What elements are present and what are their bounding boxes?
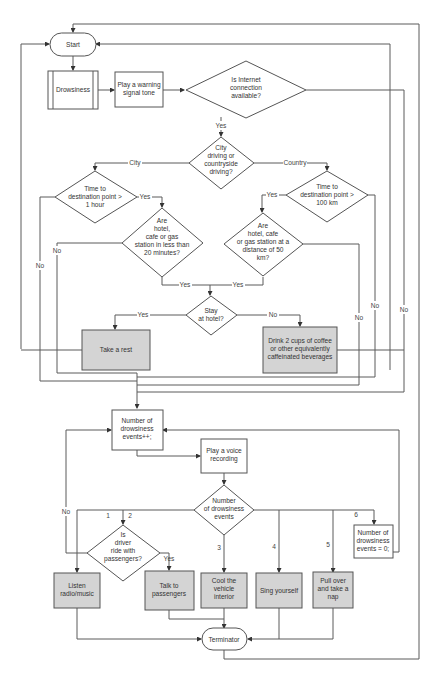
end-terminator: Terminator xyxy=(202,628,247,650)
pull-over-box: Pull over and take a nap xyxy=(313,572,353,608)
driving-type-line2: driving or xyxy=(207,152,235,160)
label-events-4: 4 xyxy=(272,543,276,550)
talk-passengers-box: Talk to passengers xyxy=(145,571,194,610)
label-time-1h-yes: Yes xyxy=(140,193,151,200)
count-reset-line3: events = 0; xyxy=(357,545,390,552)
take-rest-box: Take a rest xyxy=(82,330,150,370)
drink-coffee-line2: or other equivalently xyxy=(270,345,330,353)
voice-recording-line1: Play a voice xyxy=(206,447,242,455)
num-events-line3: events xyxy=(214,513,234,520)
drowsiness-box: Drowsiness xyxy=(48,71,98,109)
pull-over-line1: Pull over xyxy=(320,577,346,584)
time-100km-line3: 100 km xyxy=(316,199,338,206)
voice-recording-box: Play a voice recording xyxy=(201,439,247,473)
num-events-decision: Number of drowsiness events xyxy=(194,485,254,535)
cool-interior-line2: vehicle xyxy=(214,585,235,592)
hotel-20min-line5: 20 minutes? xyxy=(144,249,180,256)
count-increment-line2: drowsiness xyxy=(121,425,155,432)
internet-line1: Is Internet xyxy=(231,76,260,83)
internet-line2: connection xyxy=(230,84,262,91)
flowchart-canvas: Start Drowsiness Play a warning signal t… xyxy=(0,0,436,675)
internet-decision: Is Internet connection available? xyxy=(186,61,306,118)
hotel-20min-line1: Are xyxy=(157,217,168,224)
talk-passengers-line2: passengers xyxy=(152,590,187,598)
count-reset-line2: drowsiness xyxy=(357,537,391,544)
label-time-100km-no: No xyxy=(371,302,380,309)
time-100km-decision: Time to destination point > 100 km xyxy=(286,171,368,222)
label-time-1h-no: No xyxy=(36,262,45,269)
hotel-50km-line4: distance of 50 xyxy=(242,246,283,253)
stay-hotel-decision: Stay at hotel? xyxy=(186,296,237,335)
sing-label: Sing yourself xyxy=(260,587,298,595)
hotel-20min-line2: hotel, xyxy=(154,225,170,232)
stay-hotel-line1: Stay xyxy=(204,307,218,315)
label-internet-no: No xyxy=(400,306,409,313)
time-100km-line2: destination point > xyxy=(300,191,354,199)
listen-music-line2: radio/music xyxy=(60,590,94,597)
driving-type-line4: driving? xyxy=(209,168,232,176)
passengers-line2: driver xyxy=(115,539,132,546)
drowsiness-label: Drowsiness xyxy=(56,86,91,93)
count-reset-box: Number of drowsiness events = 0; xyxy=(354,525,393,558)
listen-music-box: Listen radio/music xyxy=(54,573,100,608)
label-passengers-no: No xyxy=(62,508,71,515)
hotel-20min-line3: cafe or gas xyxy=(146,233,179,241)
driving-type-decision: City driving or countryside driving? xyxy=(189,137,254,189)
internet-line3: available? xyxy=(231,92,261,99)
hotel-50km-line1: Are xyxy=(258,222,269,229)
connectors xyxy=(21,24,419,659)
cool-interior-line1: Cool the xyxy=(212,577,237,584)
label-hotel-50km-yes: Yes xyxy=(233,281,244,288)
hotel-20min-line4: station in less than xyxy=(135,241,190,248)
label-events-5: 5 xyxy=(326,541,330,548)
warning-tone-line1: Play a warning xyxy=(117,81,161,89)
drink-coffee-line1: Drink 2 cups of coffee xyxy=(268,337,332,345)
hotel-50km-line2: hotel, cafe xyxy=(248,230,279,237)
take-rest-label: Take a rest xyxy=(100,346,132,353)
warning-tone-line2: signal tone xyxy=(123,89,155,97)
hotel-50km-line5: km? xyxy=(257,254,270,261)
label-internet-yes: Yes xyxy=(216,122,227,129)
passengers-line3: ride with xyxy=(111,547,136,554)
drink-coffee-line3: caffeinated beverages xyxy=(268,353,333,361)
warning-tone-box: Play a warning signal tone xyxy=(115,72,163,107)
cool-interior-box: Cool the vehicle interior xyxy=(201,573,247,608)
label-passengers-yes: Yes xyxy=(164,555,175,562)
driving-type-line1: City xyxy=(215,144,227,152)
voice-recording-line2: recording xyxy=(210,455,238,463)
pull-over-line3: nap xyxy=(327,593,338,601)
listen-music-line1: Listen xyxy=(68,582,86,589)
driving-type-line3: countryside xyxy=(204,160,238,168)
label-hotel-20min-yes: Yes xyxy=(180,281,191,288)
sing-box: Sing yourself xyxy=(256,573,302,608)
count-reset-line1: Number of xyxy=(358,529,389,536)
time-1h-line1: Time to xyxy=(84,185,106,192)
terminator-label: Terminator xyxy=(208,636,240,643)
label-hotel-20min-no: No xyxy=(53,247,62,254)
passengers-line4: passengers? xyxy=(104,555,142,563)
label-country: Country xyxy=(283,159,307,167)
count-increment-line3: events++; xyxy=(123,433,152,440)
stay-hotel-line2: at hotel? xyxy=(198,315,224,322)
label-events-3: 3 xyxy=(217,544,221,551)
time-1h-line2: destination point > xyxy=(68,193,122,201)
num-events-line1: Number xyxy=(212,497,236,504)
hotel-20min-decision: Are hotel, cafe or gas station in less t… xyxy=(122,208,203,277)
start-terminator: Start xyxy=(50,33,96,56)
time-100km-line1: Time to xyxy=(316,183,338,190)
talk-passengers-line1: Talk to xyxy=(159,582,178,589)
label-stay-yes: Yes xyxy=(138,311,149,318)
hotel-50km-decision: Are hotel, cafe or gas station at a dist… xyxy=(224,213,303,276)
label-time-100km-yes: Yes xyxy=(267,191,278,198)
label-stay-no: No xyxy=(269,311,278,318)
count-increment-line1: Number of xyxy=(122,417,153,424)
passengers-line1: Is xyxy=(120,531,126,538)
pull-over-line2: and take a xyxy=(318,585,349,592)
start-label: Start xyxy=(66,41,80,48)
time-1h-line3: 1 hour xyxy=(86,201,106,208)
num-events-line2: of drowsiness xyxy=(204,505,245,512)
cool-interior-line3: interior xyxy=(214,593,235,600)
label-hotel-50km-no: No xyxy=(355,314,364,321)
count-increment-box: Number of drowsiness events++; xyxy=(112,410,163,450)
label-events-1: 1 xyxy=(106,512,110,519)
